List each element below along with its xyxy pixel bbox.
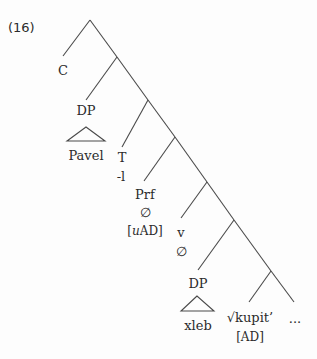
edge-spine-7 [271, 271, 294, 302]
feature-name: AD [140, 224, 158, 238]
syntax-tree [0, 0, 317, 359]
node-t: T [118, 151, 127, 164]
node-prf: Prf [135, 188, 155, 201]
edge-to-c [63, 20, 90, 56]
triangle-dp-subject [67, 127, 105, 141]
node-dp-object: DP [188, 277, 207, 290]
terminal-pavel: Pavel [68, 149, 103, 162]
page: (16) C DP Pavel T -l Prf ∅ [uAD] v ∅ DP … [0, 0, 317, 359]
node-dp-subject: DP [76, 104, 95, 117]
triangle-dp-object [181, 296, 214, 311]
edge-spine-3 [148, 100, 175, 137]
edge-to-prf [144, 137, 175, 181]
exponent-prf: ∅ [140, 206, 151, 219]
node-c: C [58, 64, 68, 77]
edge-to-root [249, 271, 271, 302]
edge-to-dp-object [198, 220, 234, 270]
feature-root: [AD] [236, 331, 264, 343]
edge-spine-4 [175, 137, 207, 182]
node-root-kupit: √kupit’ [227, 311, 273, 324]
continuation-ellipsis: ... [289, 312, 301, 325]
edge-to-dp-subject [86, 57, 117, 100]
node-v: v [177, 226, 184, 239]
edge-to-t [122, 100, 148, 147]
edge-to-v [181, 182, 207, 218]
feature-bracket-close: ] [158, 224, 163, 238]
example-number: (16) [8, 21, 35, 34]
exponent-v: ∅ [176, 245, 187, 258]
edge-spine-6 [234, 220, 271, 271]
edge-spine-1 [90, 20, 117, 57]
terminal-xleb: xleb [184, 319, 212, 332]
exponent-t: -l [117, 170, 126, 183]
feature-prf: [uAD] [127, 225, 162, 237]
edge-spine-2 [117, 57, 148, 100]
edge-spine-5 [207, 182, 234, 220]
